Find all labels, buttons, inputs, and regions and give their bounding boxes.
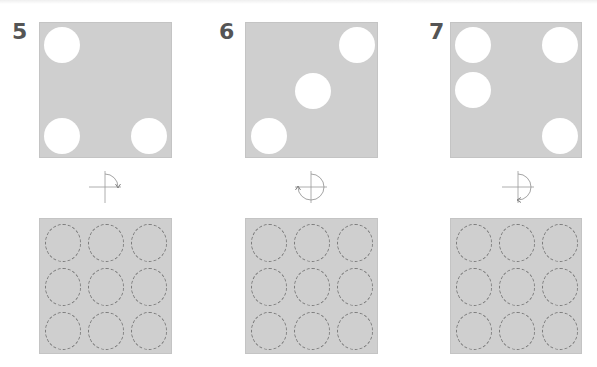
puzzle-7-card [450, 22, 582, 158]
answer-slot[interactable] [337, 268, 373, 306]
answer-slot[interactable] [251, 268, 287, 306]
answer-slot[interactable] [88, 312, 124, 350]
answer-slot[interactable] [499, 312, 535, 350]
answer-slot[interactable] [337, 224, 373, 262]
rotate-180-cw-icon [498, 167, 538, 207]
hole [542, 27, 578, 63]
answer-slot[interactable] [131, 312, 167, 350]
answer-slot[interactable] [499, 224, 535, 262]
answer-slot[interactable] [88, 268, 124, 306]
answer-slot[interactable] [337, 312, 373, 350]
answer-slot[interactable] [542, 224, 578, 262]
answer-grid-7 [450, 218, 582, 354]
puzzle-6-card [245, 22, 378, 158]
rotate-270-cw-icon [291, 167, 331, 207]
answer-slot[interactable] [294, 224, 330, 262]
hole [455, 27, 491, 63]
hole [295, 73, 331, 109]
hole [339, 27, 375, 63]
answer-slot[interactable] [131, 268, 167, 306]
hole [44, 118, 80, 154]
hole [455, 72, 491, 108]
hole [44, 27, 80, 63]
answer-slot[interactable] [251, 312, 287, 350]
answer-slot[interactable] [45, 224, 81, 262]
answer-grid-5 [39, 218, 172, 354]
answer-grid-6 [245, 218, 378, 354]
cut-off-header-text [0, 0, 597, 4]
puzzle-5-card [39, 22, 172, 158]
answer-slot[interactable] [45, 268, 81, 306]
answer-slot[interactable] [456, 312, 492, 350]
hole [251, 118, 287, 154]
puzzle-number-7: 7 [429, 21, 444, 43]
answer-slot[interactable] [45, 312, 81, 350]
answer-slot[interactable] [456, 224, 492, 262]
puzzle-number-5: 5 [12, 21, 27, 43]
answer-slot[interactable] [88, 224, 124, 262]
answer-slot[interactable] [131, 224, 167, 262]
answer-slot[interactable] [499, 268, 535, 306]
answer-slot[interactable] [294, 312, 330, 350]
puzzle-number-6: 6 [219, 21, 234, 43]
answer-slot[interactable] [294, 268, 330, 306]
hole [131, 118, 167, 154]
answer-slot[interactable] [542, 268, 578, 306]
answer-slot[interactable] [251, 224, 287, 262]
answer-slot[interactable] [456, 268, 492, 306]
rotate-90-cw-icon [85, 167, 125, 207]
answer-slot[interactable] [542, 312, 578, 350]
hole [542, 118, 578, 154]
